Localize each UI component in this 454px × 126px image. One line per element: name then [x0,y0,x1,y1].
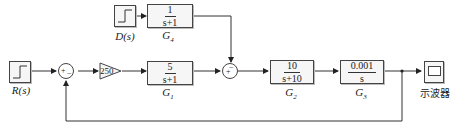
step-source-d[interactable] [114,5,136,27]
step-icon [10,62,30,82]
source-d-label: D(s) [110,30,140,42]
gain-block[interactable]: 250 [100,66,114,76]
g3-label: G3 [351,86,371,101]
block-g3[interactable]: 0.001 s [340,60,384,84]
scope-label: 示波器 [420,85,450,100]
block-g2[interactable]: 10 s+10 [270,60,314,84]
sum1-minus: − [67,69,72,78]
g1-label: G1 [158,86,178,101]
scope-screen-icon [428,66,441,76]
step-source-r[interactable] [9,61,31,83]
scope-block[interactable] [424,61,444,83]
sum-junction-1[interactable]: + − [58,63,74,79]
block-g4[interactable]: 1 s+1 [147,4,193,28]
step-icon [115,6,135,26]
sum-junction-2[interactable]: + − [222,63,238,79]
g4-label: G4 [158,29,178,44]
sum1-plus: + [61,66,66,75]
sum2-minus: − [229,63,234,72]
block-g1[interactable]: 5 s+1 [147,61,193,85]
g2-label: G2 [281,86,301,101]
source-r-label: R(s) [6,84,36,96]
